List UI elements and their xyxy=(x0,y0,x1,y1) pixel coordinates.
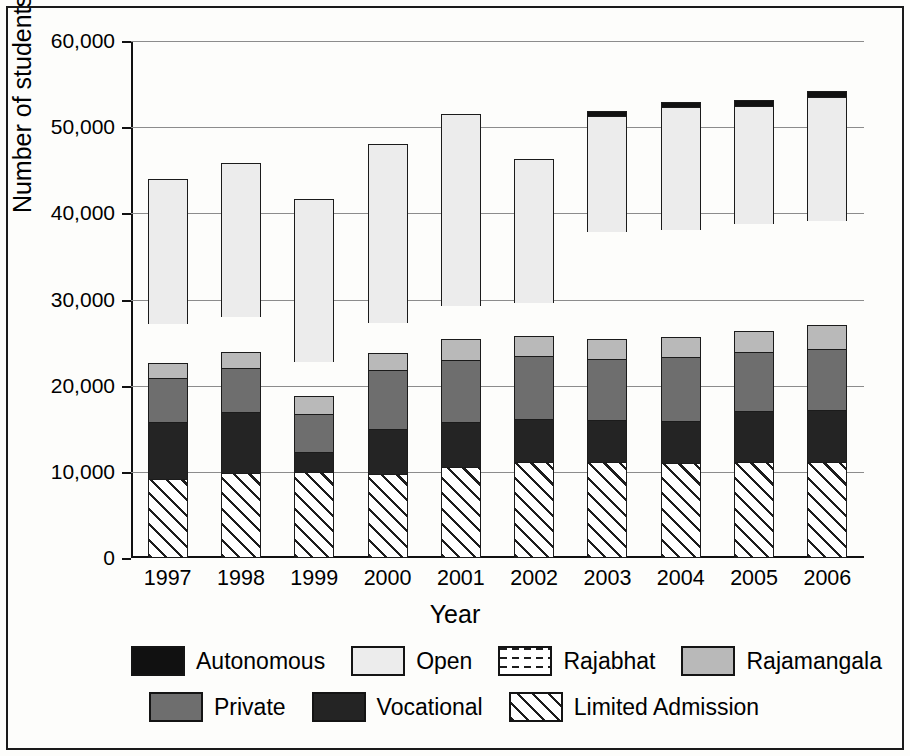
bar-segment-vocational xyxy=(587,420,627,461)
bar-segment-limited-admission xyxy=(807,462,847,559)
bar-segment-limited-admission xyxy=(661,463,701,558)
bar-segment-limited-admission xyxy=(514,462,554,558)
y-axis-tick-label: 20,000 xyxy=(0,374,115,398)
x-axis-tick-label: 2003 xyxy=(584,566,632,591)
bar-segment-open xyxy=(294,199,334,363)
bar-stack xyxy=(294,41,334,558)
y-axis-tick-label: 10,000 xyxy=(0,460,115,484)
y-axis-tick xyxy=(122,300,131,302)
legend-swatch-icon xyxy=(312,692,366,722)
bar-stack xyxy=(661,41,701,558)
bar-segment-open xyxy=(148,179,188,324)
bar-segment-open xyxy=(221,163,261,316)
bar-segment-vocational xyxy=(514,419,554,462)
x-axis-tick-label: 2001 xyxy=(437,566,485,591)
chart-figure: Number of students 010,00020,00030,00040… xyxy=(0,0,910,756)
legend-label: Rajabhat xyxy=(563,648,655,675)
bar-stack xyxy=(587,41,627,558)
legend-label: Vocational xyxy=(377,694,483,721)
bar-segment-private xyxy=(807,349,847,410)
legend-swatch-icon xyxy=(149,692,203,722)
legend-item[interactable]: Private xyxy=(149,692,312,722)
legend-item[interactable]: Open xyxy=(351,646,498,676)
bar-segment-private xyxy=(587,359,627,420)
bar-stack xyxy=(148,41,188,558)
bar-segment-vocational xyxy=(294,452,334,472)
x-axis-tick-label: 2006 xyxy=(803,566,851,591)
bar-segment-rajamangala xyxy=(514,336,554,356)
legend-swatch-icon xyxy=(131,646,185,676)
legend-item[interactable]: Rajabhat xyxy=(498,646,681,676)
bar-segment-open xyxy=(734,106,774,224)
bar-segment-open xyxy=(661,107,701,229)
bar-segment-autonomous xyxy=(661,102,701,107)
bar-segment-autonomous xyxy=(807,91,847,97)
bar-segment-vocational xyxy=(734,411,774,463)
bar-segment-private xyxy=(148,378,188,422)
x-axis-tick-label: 2005 xyxy=(730,566,778,591)
x-axis-title: Year xyxy=(0,600,910,629)
bar-segment-limited-admission xyxy=(368,474,408,558)
x-axis-tick-label: 1999 xyxy=(290,566,338,591)
legend-label: Private xyxy=(214,694,286,721)
bar-segment-private xyxy=(294,414,334,452)
bar-segment-open xyxy=(807,97,847,221)
legend-row-1: AutonomousOpenRajabhatRajamangala xyxy=(131,638,891,684)
bar-stack xyxy=(368,41,408,558)
bar-segment-rajamangala xyxy=(368,353,408,370)
legend-item[interactable]: Autonomous xyxy=(131,646,351,676)
legend-label: Autonomous xyxy=(196,648,325,675)
legend-item[interactable]: Rajamangala xyxy=(681,646,908,676)
x-axis-tick-label: 1997 xyxy=(144,566,192,591)
legend-label: Limited Admission xyxy=(574,694,759,721)
bar-segment-open xyxy=(514,159,554,303)
bar-segment-vocational xyxy=(368,429,408,475)
bar-segment-limited-admission xyxy=(148,479,188,558)
bar-segment-vocational xyxy=(441,422,481,467)
y-axis-tick xyxy=(122,213,131,215)
bar-segment-rajamangala xyxy=(807,325,847,349)
bar-segment-vocational xyxy=(661,421,701,463)
bar-segment-private xyxy=(734,352,774,411)
bar-segment-limited-admission xyxy=(587,462,627,559)
bar-segment-rajamangala xyxy=(661,337,701,358)
chart-legend: AutonomousOpenRajabhatRajamangala Privat… xyxy=(131,638,891,730)
bar-segment-open xyxy=(368,144,408,322)
legend-label: Open xyxy=(416,648,472,675)
bar-stack xyxy=(807,41,847,558)
y-axis-tick-label: 0 xyxy=(0,546,115,570)
bar-stack xyxy=(221,41,261,558)
y-axis-tick-label: 50,000 xyxy=(0,115,115,139)
y-axis-tick-label: 30,000 xyxy=(0,288,115,312)
bar-segment-rajamangala xyxy=(734,331,774,353)
bar-segment-rajamangala xyxy=(221,352,261,368)
bar-segment-private xyxy=(441,360,481,422)
y-axis-tick-label: 60,000 xyxy=(0,29,115,53)
y-axis-tick xyxy=(122,472,131,474)
bar-segment-rajamangala xyxy=(294,396,334,414)
y-axis-tick xyxy=(122,386,131,388)
legend-swatch-icon xyxy=(351,646,405,676)
bar-segment-open xyxy=(441,114,481,305)
bar-segment-private xyxy=(514,356,554,420)
x-axis-tick-label: 2004 xyxy=(657,566,705,591)
bar-segment-vocational xyxy=(807,410,847,462)
y-axis-tick xyxy=(122,127,131,129)
bar-segment-rajamangala xyxy=(148,363,188,378)
y-axis-tick-label: 40,000 xyxy=(0,201,115,225)
y-axis-tick xyxy=(122,41,131,43)
legend-item[interactable]: Vocational xyxy=(312,692,509,722)
bar-segment-private xyxy=(661,357,701,421)
bar-segment-private xyxy=(368,370,408,429)
y-axis-tick xyxy=(122,558,131,560)
legend-item[interactable]: Limited Admission xyxy=(509,692,785,722)
x-axis-tick-label: 2000 xyxy=(364,566,412,591)
bar-stack xyxy=(734,41,774,558)
bar-segment-open xyxy=(587,116,627,232)
bar-segment-vocational xyxy=(148,422,188,479)
legend-row-2: PrivateVocationalLimited Admission xyxy=(131,684,891,730)
bar-stack xyxy=(441,41,481,558)
legend-swatch-icon xyxy=(509,692,563,722)
bar-segment-private xyxy=(221,368,261,412)
bar-segment-rajamangala xyxy=(587,339,627,359)
